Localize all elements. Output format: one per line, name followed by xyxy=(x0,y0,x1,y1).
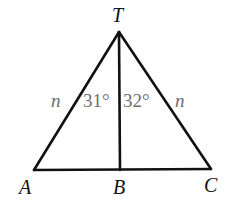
side-label-TC: n xyxy=(175,90,185,111)
vertex-label-T: T xyxy=(112,4,125,26)
vertex-label-A: A xyxy=(17,176,32,198)
vertex-label-B: B xyxy=(113,176,125,198)
segment-TB xyxy=(119,32,120,170)
angle-label-BTC: 32° xyxy=(123,90,150,111)
triangle-diagram: T A B C n n 31° 32° xyxy=(0,0,233,208)
side-label-TA: n xyxy=(51,90,61,111)
angle-label-ATB: 31° xyxy=(83,90,110,111)
vertex-label-C: C xyxy=(204,174,218,196)
segment-AC xyxy=(34,169,211,170)
